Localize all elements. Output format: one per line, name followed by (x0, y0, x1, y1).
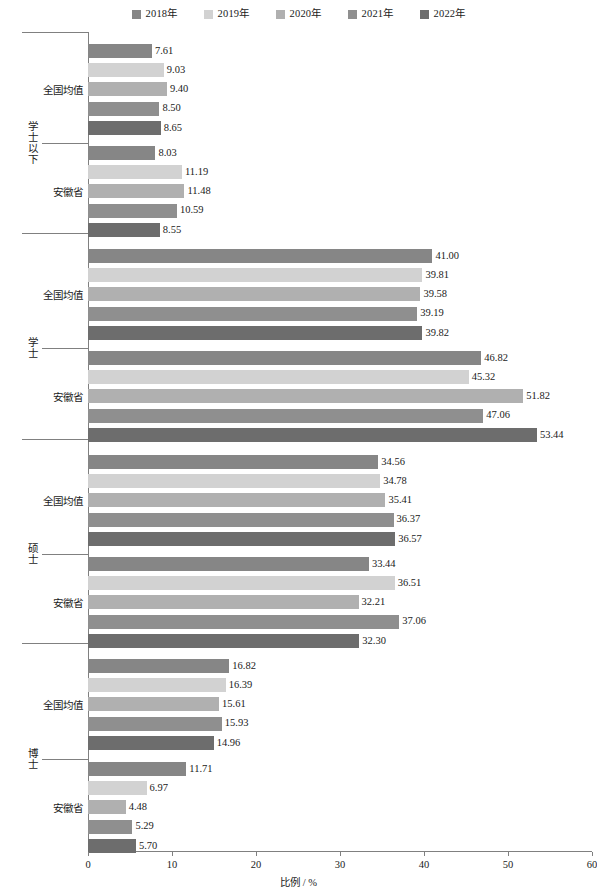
outer-axis-tick (42, 554, 88, 555)
bar[interactable] (88, 287, 420, 301)
inner-category-label: 安徽省 (53, 804, 83, 815)
bar[interactable] (88, 800, 126, 814)
bar[interactable] (88, 493, 385, 507)
bar[interactable] (88, 389, 523, 403)
bar-row: 47.06 (88, 409, 592, 423)
bar[interactable] (88, 762, 186, 776)
bar[interactable] (88, 121, 161, 135)
bar[interactable] (88, 820, 132, 834)
bar-value-label: 36.51 (398, 578, 422, 589)
bar[interactable] (88, 576, 395, 590)
legend-item-4[interactable]: 2021年 (348, 9, 394, 20)
bar[interactable] (88, 146, 155, 160)
legend-swatch-icon (276, 10, 285, 19)
bar[interactable] (88, 557, 369, 571)
bar-value-label: 51.82 (526, 391, 550, 402)
bar-value-label: 39.19 (420, 308, 444, 319)
bar-value-label: 34.56 (381, 457, 405, 468)
bar[interactable] (88, 474, 380, 488)
bar-value-label: 39.81 (425, 270, 449, 281)
bar[interactable] (88, 781, 147, 795)
bar-row: 8.03 (88, 146, 592, 160)
bar-value-label: 7.61 (155, 46, 173, 57)
bar[interactable] (88, 223, 160, 237)
bar[interactable] (88, 717, 222, 731)
bar[interactable] (88, 513, 394, 527)
bar-value-label: 9.40 (170, 84, 188, 95)
bar-row: 11.48 (88, 184, 592, 198)
bar[interactable] (88, 184, 184, 198)
bar[interactable] (88, 532, 395, 546)
inner-category-label: 全国均值 (43, 86, 83, 97)
bar-group: 46.8245.3251.8247.0653.44 (88, 351, 592, 447)
outer-group-separator (22, 643, 88, 644)
x-axis-tick-label: 50 (503, 860, 514, 871)
bar[interactable] (88, 63, 164, 77)
bar-row: 8.65 (88, 121, 592, 135)
bar[interactable] (88, 678, 226, 692)
bar[interactable] (88, 697, 219, 711)
bar-value-label: 11.19 (185, 167, 208, 178)
bar[interactable] (88, 455, 378, 469)
bar[interactable] (88, 326, 422, 340)
legend-item-label: 2018年 (146, 9, 178, 20)
x-axis-tick-label: 40 (419, 860, 430, 871)
outer-group-separator (22, 233, 88, 234)
x-axis-tick-label: 0 (85, 860, 90, 871)
bar[interactable] (88, 615, 399, 629)
bar[interactable] (88, 634, 359, 648)
legend-swatch-icon (132, 10, 141, 19)
legend-item-1[interactable]: 2018年 (132, 9, 178, 20)
bar-value-label: 8.50 (162, 103, 180, 114)
bar-row: 32.21 (88, 595, 592, 609)
legend-item-5[interactable]: 2022年 (420, 9, 466, 20)
bar[interactable] (88, 595, 359, 609)
bar[interactable] (88, 307, 417, 321)
bar-row: 35.41 (88, 493, 592, 507)
bar-row: 5.70 (88, 839, 592, 853)
legend-item-label: 2022年 (434, 9, 466, 20)
legend-item-3[interactable]: 2020年 (276, 9, 322, 20)
bar-row: 45.32 (88, 370, 592, 384)
bar[interactable] (88, 249, 432, 263)
outer-category-label: 学士以下 (26, 121, 37, 165)
bar[interactable] (88, 839, 136, 853)
x-axis-tick (172, 852, 173, 856)
bar[interactable] (88, 204, 177, 218)
bar[interactable] (88, 351, 481, 365)
bar-value-label: 11.48 (187, 186, 210, 197)
legend-item-label: 2020年 (290, 9, 322, 20)
bar-value-label: 36.37 (397, 514, 421, 525)
inner-category-label: 安徽省 (53, 188, 83, 199)
outer-category-label: 博士 (26, 748, 37, 770)
bar-value-label: 8.65 (164, 123, 182, 134)
bar[interactable] (88, 659, 229, 673)
bar[interactable] (88, 409, 483, 423)
bar-value-label: 6.97 (150, 783, 168, 794)
bar-value-label: 32.30 (362, 636, 386, 647)
outer-axis-rail (22, 32, 23, 853)
bar[interactable] (88, 268, 422, 282)
x-axis-tick-label: 10 (167, 860, 178, 871)
bar[interactable] (88, 370, 469, 384)
x-axis-tick (592, 852, 593, 856)
bar-row: 16.82 (88, 659, 592, 673)
bar-row: 8.50 (88, 102, 592, 116)
bar[interactable] (88, 736, 214, 750)
bar-row: 39.82 (88, 326, 592, 340)
outer-category-label: 学士 (26, 337, 37, 359)
bar-row: 16.39 (88, 678, 592, 692)
bar-row: 39.19 (88, 307, 592, 321)
bar[interactable] (88, 428, 537, 442)
bar-row: 32.30 (88, 634, 592, 648)
bar-row: 15.93 (88, 717, 592, 731)
bar-row: 5.29 (88, 820, 592, 834)
y-axis-top-cap (22, 32, 88, 33)
bar[interactable] (88, 44, 152, 58)
legend-item-label: 2021年 (362, 9, 394, 20)
legend-item-2[interactable]: 2019年 (204, 9, 250, 20)
bar[interactable] (88, 82, 167, 96)
bar[interactable] (88, 102, 159, 116)
bar[interactable] (88, 165, 182, 179)
x-axis-tick-label: 30 (335, 860, 346, 871)
